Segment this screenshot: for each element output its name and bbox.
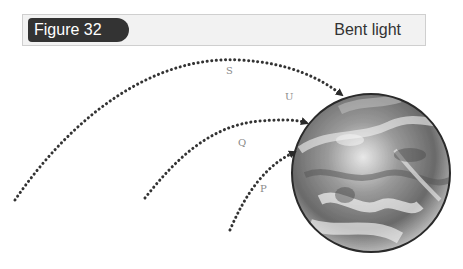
earth-globe-icon [292,94,455,252]
bent-light-diagram: S U Q P [0,0,463,269]
label-s: S [226,65,233,76]
light-path-q [145,120,307,198]
label-u: U [285,91,293,102]
label-p: P [260,183,267,194]
label-q: Q [238,137,246,148]
